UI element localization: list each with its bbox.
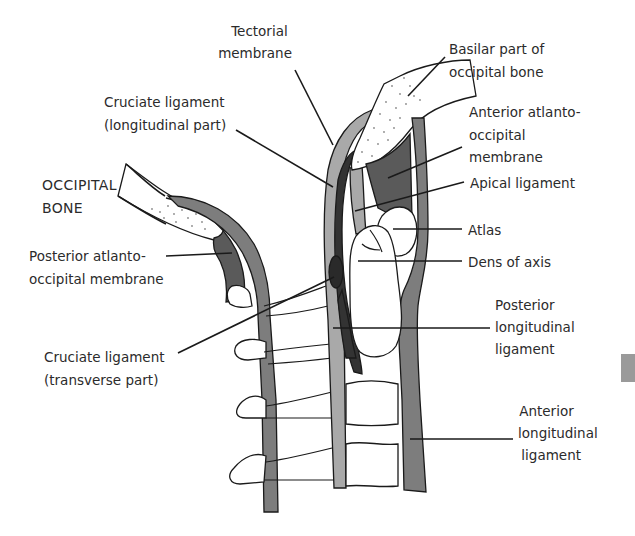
posterior-structures bbox=[118, 164, 278, 512]
label-dens-of-axis: Dens of axis bbox=[468, 254, 551, 270]
vertebral-body-c4 bbox=[346, 443, 398, 487]
ligament-diagram: Tectorial membrane Basilar part of occip… bbox=[0, 0, 635, 536]
label-cruciate-longitudinal: Cruciate ligament (longitudinal part) bbox=[104, 94, 229, 133]
vertebral-body-c3 bbox=[346, 381, 398, 426]
spinous-process-c4 bbox=[230, 455, 266, 485]
occipital-bone-shape bbox=[118, 164, 224, 240]
spinous-process-c3 bbox=[237, 396, 266, 418]
label-posterior-longitudinal: Posterior longitudinal ligament bbox=[495, 297, 579, 357]
apical-ligament-shape bbox=[350, 166, 366, 234]
labels: Tectorial membrane Basilar part of occip… bbox=[29, 23, 602, 463]
label-anterior-atlanto-occipital: Anterior atlanto- occipital membrane bbox=[469, 104, 585, 165]
label-atlas: Atlas bbox=[468, 222, 501, 238]
label-cruciate-transverse: Cruciate ligament (transverse part) bbox=[44, 349, 169, 388]
label-anterior-longitudinal: Anterior longitudinal ligament bbox=[518, 403, 602, 463]
label-tectorial-membrane: Tectorial membrane bbox=[218, 23, 292, 61]
label-occipital-bone: OCCIPITAL BONE bbox=[42, 177, 122, 216]
cruciate-transverse-shape bbox=[329, 256, 343, 288]
label-posterior-atlanto-occipital: Posterior atlanto- occipital membrane bbox=[29, 248, 164, 287]
edge-grey-tab bbox=[621, 354, 635, 382]
anterior-structures bbox=[324, 60, 476, 492]
label-apical-ligament: Apical ligament bbox=[470, 175, 575, 191]
spinous-process-c2 bbox=[235, 339, 266, 360]
posterior-arch-atlas bbox=[227, 285, 252, 307]
